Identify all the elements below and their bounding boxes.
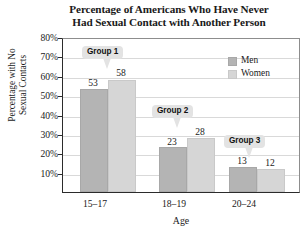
y-axis-tick-labels: 80% 70% 60% 50% 40% 30% 20% 10%	[26, 38, 58, 193]
chart-title-line-2: Had Sexual Contact with Another Person	[38, 16, 300, 29]
legend-swatch-men-icon	[228, 57, 237, 66]
x-axis-title: Age	[62, 216, 300, 226]
x-tick-label-18-19: 18–19	[144, 199, 204, 209]
x-tick-label-15-17: 15–17	[65, 199, 125, 209]
bar-women-15-17	[108, 80, 136, 192]
y-tick-label: 20%	[28, 149, 58, 159]
y-tick-label: 80%	[28, 33, 58, 43]
y-tick-label: 30%	[28, 130, 58, 140]
legend-label-women: Women	[241, 69, 270, 78]
bar-men-18-19	[159, 147, 187, 192]
annotation-group-3-tail	[245, 147, 253, 158]
legend: Men Women	[228, 55, 270, 81]
bar-women-18-19	[187, 138, 215, 192]
y-axis-title-line-1: Percentage with No	[7, 23, 18, 147]
y-tick-label: 60%	[28, 72, 58, 82]
bar-value-women-18-19: 28	[186, 127, 214, 137]
legend-item-women: Women	[228, 68, 270, 80]
annotation-group-2-tail	[173, 117, 181, 128]
chart-title-line-1: Percentage of Americans Who Have Never	[38, 3, 300, 16]
y-tick-label: 70%	[28, 52, 58, 62]
bar-value-women-20-24: 12	[256, 158, 284, 168]
bar-women-20-24	[257, 169, 285, 192]
annotation-group-1-tail	[103, 58, 111, 69]
bar-value-men-18-19: 23	[158, 137, 186, 147]
bar-value-women-15-17: 58	[107, 68, 135, 78]
x-tick-label-20-24: 20–24	[214, 199, 274, 209]
chart-title: Percentage of Americans Who Have Never H…	[38, 3, 300, 29]
bar-men-15-17	[80, 89, 108, 192]
y-tick-label: 50%	[28, 91, 58, 101]
bar-value-men-15-17: 53	[79, 78, 107, 88]
bar-men-20-24	[229, 167, 257, 192]
legend-item-men: Men	[228, 55, 270, 67]
legend-label-men: Men	[241, 56, 258, 65]
y-tick-label: 40%	[28, 111, 58, 121]
bar-chart: Percentage of Americans Who Have Never H…	[0, 0, 305, 237]
y-tick-label: 10%	[28, 169, 58, 179]
legend-swatch-women-icon	[228, 70, 237, 79]
